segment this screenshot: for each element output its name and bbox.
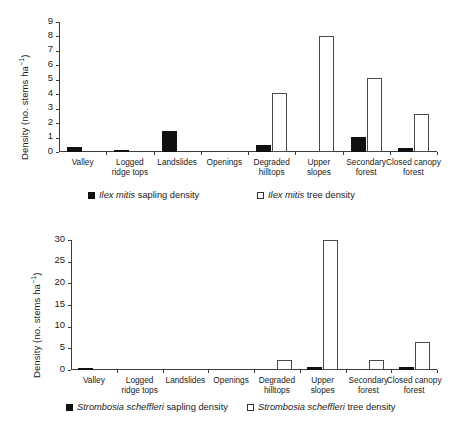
bar-slot bbox=[248, 22, 295, 152]
bar-sapling bbox=[398, 148, 413, 152]
bar-sapling bbox=[351, 137, 366, 152]
y-axis-label-top-exponent: −1 bbox=[18, 58, 25, 66]
bar-tree bbox=[277, 360, 292, 370]
x-axis-tick-mark bbox=[391, 370, 392, 373]
x-axis-tick-mark bbox=[254, 370, 255, 373]
y-axis-tick-mark bbox=[56, 152, 59, 153]
y-axis-tick-label: 25 bbox=[54, 255, 65, 265]
bar-slot bbox=[390, 22, 437, 152]
legend-species-name: Ilex mitis bbox=[99, 190, 135, 200]
x-axis-tick-mark bbox=[390, 152, 391, 155]
y-axis-tick-label: 6 bbox=[48, 59, 53, 69]
y-axis-label-bottom-wrap: Density (no. stems ha−1) bbox=[0, 210, 22, 421]
plot-area-bottom: 051015202530 bbox=[71, 240, 437, 370]
legend-species-name: Strombosia scheffleri bbox=[77, 402, 164, 412]
bar-tree bbox=[319, 36, 334, 152]
plot-area-top: 0123456789 bbox=[59, 22, 437, 152]
bar-slot bbox=[117, 240, 163, 370]
legend-item: Strombosia scheffleri tree density bbox=[247, 402, 395, 412]
x-axis-tick-mark bbox=[201, 152, 202, 155]
x-axis-tick-mark bbox=[346, 370, 347, 373]
x-axis-category-label: Closed canopyforest bbox=[385, 376, 443, 395]
x-axis-tick-mark bbox=[106, 152, 107, 155]
y-axis-tick-label: 3 bbox=[48, 102, 53, 112]
y-axis-tick-label: 5 bbox=[48, 73, 53, 83]
bar-slot bbox=[254, 240, 300, 370]
y-axis-tick-label: 8 bbox=[48, 30, 53, 40]
legend-label-rest: tree density bbox=[304, 190, 355, 200]
bar-tree bbox=[415, 342, 430, 370]
legend-label-rest: tree density bbox=[345, 402, 396, 412]
category-label-line: ridge tops bbox=[111, 386, 169, 396]
y-axis-label-top-paren: ) bbox=[19, 55, 30, 58]
bar-slot bbox=[59, 22, 106, 152]
chart-panel-strombosia-scheffleri: Density (no. stems ha−1) 051015202530 Va… bbox=[0, 210, 457, 421]
bar-sapling bbox=[307, 367, 322, 370]
y-axis-label-top-wrap: Density (no. stems ha−1) bbox=[0, 0, 22, 210]
category-label-line: forest bbox=[385, 386, 443, 396]
legend-label: Strombosia scheffleri sapling density bbox=[77, 402, 228, 412]
legend-species-name: Ilex mitis bbox=[268, 190, 304, 200]
x-axis-tick-mark bbox=[117, 370, 118, 373]
legend-swatch-filled-icon bbox=[88, 192, 95, 199]
bar-slot bbox=[163, 240, 209, 370]
bar-sapling bbox=[162, 131, 177, 152]
legend-label-rest: sapling density bbox=[135, 190, 199, 200]
legend-label: Ilex mitis sapling density bbox=[99, 190, 199, 200]
bar-slot bbox=[391, 240, 437, 370]
bar-slot bbox=[201, 22, 248, 152]
legend-swatch-hollow-icon bbox=[257, 192, 264, 199]
y-axis-label-bottom-exponent: −1 bbox=[30, 276, 37, 284]
bar-slot bbox=[71, 240, 117, 370]
x-axis-tick-mark bbox=[300, 370, 301, 373]
y-axis-tick-label: 20 bbox=[54, 277, 65, 287]
y-axis-label-bottom-text: Density (no. stems ha bbox=[31, 284, 42, 378]
legend-label: Strombosia scheffleri tree density bbox=[258, 402, 395, 412]
legend-label: Ilex mitis tree density bbox=[268, 190, 355, 200]
chart-panel-ilex-mitis: Density (no. stems ha−1) 0123456789 Vall… bbox=[0, 0, 457, 210]
legend-item: Ilex mitis sapling density bbox=[88, 190, 199, 200]
y-axis-tick-label: 4 bbox=[48, 88, 53, 98]
bar-slot bbox=[106, 22, 153, 152]
bar-slot bbox=[154, 22, 201, 152]
category-label-line: ridge tops bbox=[100, 168, 159, 178]
bar-sapling bbox=[67, 147, 82, 152]
bar-tree bbox=[369, 360, 384, 370]
x-axis-tick-mark bbox=[154, 152, 155, 155]
bar-tree bbox=[414, 114, 429, 152]
x-axis-tick-mark bbox=[208, 370, 209, 373]
bar-sapling bbox=[78, 368, 93, 370]
legend-species-name: Strombosia scheffleri bbox=[258, 402, 345, 412]
y-axis-tick-mark bbox=[68, 370, 71, 371]
legend-swatch-filled-icon bbox=[66, 404, 73, 411]
y-axis-tick-label: 1 bbox=[48, 131, 53, 141]
x-axis-tick-mark bbox=[295, 152, 296, 155]
x-axis-tick-mark bbox=[343, 152, 344, 155]
legend-label-rest: sapling density bbox=[164, 402, 228, 412]
bar-tree bbox=[367, 78, 382, 152]
bar-tree bbox=[323, 240, 338, 370]
y-axis-label-bottom-paren: ) bbox=[31, 273, 42, 276]
y-axis-tick-label: 0 bbox=[48, 146, 53, 156]
y-axis-tick-label: 15 bbox=[54, 299, 65, 309]
bar-sapling bbox=[399, 367, 414, 370]
x-axis-category-label: Closed canopyforest bbox=[384, 158, 443, 177]
legend-swatch-hollow-icon bbox=[247, 404, 254, 411]
bar-slot bbox=[300, 240, 346, 370]
x-axis-tick-mark bbox=[437, 152, 438, 155]
y-axis-label-bottom: Density (no. stems ha−1) bbox=[30, 273, 42, 378]
x-axis-tick-mark bbox=[248, 152, 249, 155]
y-axis-tick-label: 2 bbox=[48, 117, 53, 127]
bar-sapling bbox=[256, 145, 271, 152]
category-label-line: forest bbox=[384, 168, 443, 178]
figure-root: Density (no. stems ha−1) 0123456789 Vall… bbox=[0, 0, 457, 421]
bar-sapling bbox=[114, 150, 129, 152]
y-axis-tick-label: 10 bbox=[54, 320, 65, 330]
x-axis-tick-mark bbox=[163, 370, 164, 373]
bar-slot bbox=[208, 240, 254, 370]
y-axis-tick-label: 9 bbox=[48, 16, 53, 26]
y-axis-tick-label: 30 bbox=[54, 234, 65, 244]
legend-item: Ilex mitis tree density bbox=[257, 190, 355, 200]
y-axis-tick-label: 7 bbox=[48, 44, 53, 54]
y-axis-tick-label: 5 bbox=[60, 342, 65, 352]
